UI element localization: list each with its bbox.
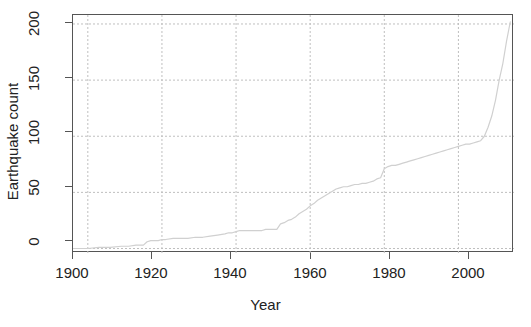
- vertical-gridlines: [88, 15, 459, 253]
- x-tick-mark-2000: [468, 252, 469, 259]
- x-tick-mark-1920: [151, 252, 152, 259]
- earthquake-count-chart: 0 50 100 150 200 1900 1920 1940 1960 198…: [0, 0, 531, 327]
- x-tick-label-1900: 1900: [42, 264, 102, 281]
- x-tick-label-1940: 1940: [200, 264, 260, 281]
- y-tick-label-200: 200: [25, 0, 42, 48]
- y-axis-title: Earthquake count: [4, 22, 21, 262]
- x-tick-mark-1980: [389, 252, 390, 259]
- y-tick-label-150: 150: [25, 55, 42, 103]
- y-tick-mark-150: [65, 77, 72, 78]
- x-tick-mark-1960: [310, 252, 311, 259]
- y-tick-mark-50: [65, 186, 72, 187]
- x-tick-label-2000: 2000: [438, 264, 498, 281]
- y-tick-mark-0: [65, 240, 72, 241]
- y-tick-mark-200: [65, 22, 72, 23]
- y-tick-label-100: 100: [25, 109, 42, 157]
- x-tick-label-1920: 1920: [121, 264, 181, 281]
- y-tick-label-50: 50: [25, 169, 42, 207]
- horizontal-gridlines: [73, 24, 514, 249]
- x-axis-title: Year: [0, 296, 531, 313]
- x-tick-mark-1940: [230, 252, 231, 259]
- x-tick-label-1980: 1980: [359, 264, 419, 281]
- x-tick-label-1960: 1960: [280, 264, 340, 281]
- plot-svg: [73, 15, 514, 253]
- x-tick-mark-1900: [72, 252, 73, 259]
- plot-area: [72, 14, 513, 252]
- earthquake-count-line: [73, 22, 510, 249]
- y-tick-label-0: 0: [25, 229, 42, 255]
- y-tick-mark-100: [65, 131, 72, 132]
